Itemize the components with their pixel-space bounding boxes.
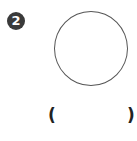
answer-blank[interactable] bbox=[60, 104, 122, 126]
question-number-badge: 2 bbox=[7, 12, 25, 30]
open-parenthesis: ( bbox=[48, 104, 56, 126]
answer-area: ( ) bbox=[46, 104, 136, 126]
close-parenthesis: ) bbox=[127, 104, 135, 126]
circle-shape bbox=[54, 11, 128, 86]
